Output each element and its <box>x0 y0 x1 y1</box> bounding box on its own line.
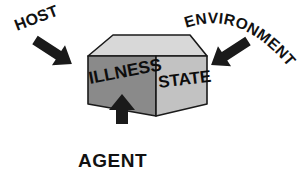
host-arrow-icon <box>28 30 78 74</box>
environment-label-svg: ENVIRONMENT <box>182 2 304 80</box>
environment-label: ENVIRONMENT <box>182 9 299 69</box>
agent-label: AGENT <box>78 150 147 172</box>
environment-label-textpath: ENVIRONMENT <box>182 9 299 69</box>
diagram-canvas: ILLNESS STATE HOST AGENT ENVIRONMENT <box>0 0 304 179</box>
